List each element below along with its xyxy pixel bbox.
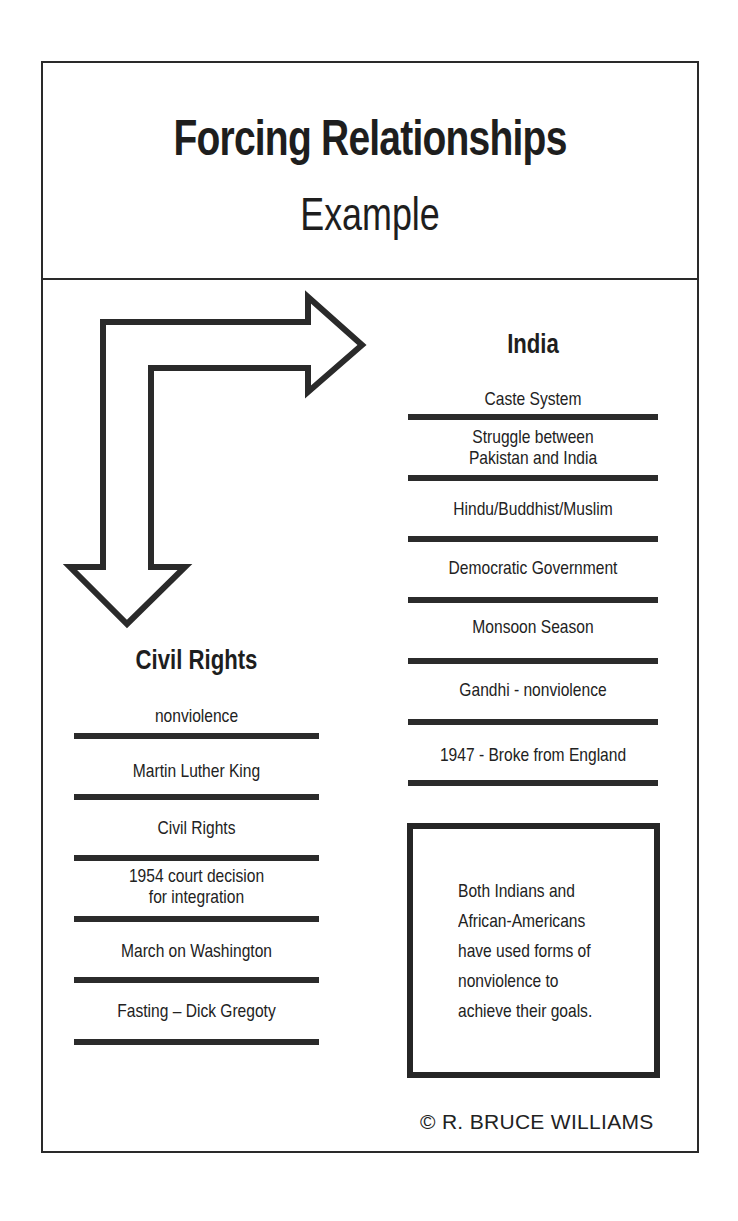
civil-rights-rule-1 xyxy=(74,733,319,739)
india-rule-2 xyxy=(408,475,658,481)
india-item-religions: Hindu/Buddhist/Muslim xyxy=(431,498,636,519)
civil-rights-item-march: March on Washington xyxy=(96,940,297,961)
civil-rights-rule-3 xyxy=(74,855,319,861)
india-item-struggle-2: Pakistan and India xyxy=(431,447,636,468)
civil-rights-rule-2 xyxy=(74,794,319,800)
conclusion-line-3: have used forms of xyxy=(458,936,622,966)
india-rule-1 xyxy=(408,414,658,420)
india-item-struggle-1: Struggle between xyxy=(431,426,636,447)
india-rule-4 xyxy=(408,597,658,603)
civil-rights-heading: Civil Rights xyxy=(96,645,297,675)
india-item-monsoon: Monsoon Season xyxy=(431,616,636,637)
india-rule-5 xyxy=(408,658,658,664)
india-rule-6 xyxy=(408,719,658,725)
conclusion-line-5: achieve their goals. xyxy=(458,996,622,1026)
conclusion-line-1: Both Indians and xyxy=(458,876,622,906)
india-rule-3 xyxy=(408,536,658,542)
conclusion-text: Both Indians and African-Americans have … xyxy=(458,876,622,1026)
civil-rights-rule-4 xyxy=(74,916,319,922)
civil-rights-item-civil-rights: Civil Rights xyxy=(96,817,297,838)
civil-rights-item-fasting: Fasting – Dick Gregoty xyxy=(96,1000,297,1021)
civil-rights-item-1954-2: for integration xyxy=(96,886,297,907)
india-item-1947: 1947 - Broke from England xyxy=(431,744,636,765)
india-item-caste: Caste System xyxy=(431,388,636,409)
civil-rights-rule-5 xyxy=(74,977,319,983)
india-item-gandhi: Gandhi - nonviolence xyxy=(431,679,636,700)
civil-rights-rule-6 xyxy=(74,1039,319,1045)
copyright-credit: © R. BRUCE WILLIAMS xyxy=(420,1110,680,1134)
india-heading: India xyxy=(431,329,636,359)
conclusion-line-4: nonviolence to xyxy=(458,966,622,996)
india-item-democratic: Democratic Government xyxy=(431,557,636,578)
conclusion-line-2: African-Americans xyxy=(458,906,622,936)
civil-rights-item-mlk: Martin Luther King xyxy=(96,760,297,781)
civil-rights-item-nonviolence: nonviolence xyxy=(96,705,297,726)
india-rule-7 xyxy=(408,780,658,786)
civil-rights-item-1954-1: 1954 court decision xyxy=(96,865,297,886)
